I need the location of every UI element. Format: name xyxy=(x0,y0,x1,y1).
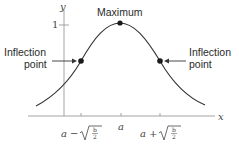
x-axis-label: x xyxy=(218,111,224,122)
sqrt-icon xyxy=(159,126,181,140)
left-inflection-point xyxy=(78,58,84,64)
gaussian-curve xyxy=(36,23,205,106)
x-tick-label-right: a + b 2 xyxy=(140,126,181,140)
svg-text:b: b xyxy=(93,126,97,133)
left-inflection-label-line1: Inflection xyxy=(4,46,46,58)
right-inflection-point xyxy=(157,58,163,64)
right-inflection-label-line2: point xyxy=(189,58,212,70)
left-arrow-head-icon xyxy=(72,59,77,64)
right-arrow-head-icon xyxy=(164,59,169,64)
svg-text:2: 2 xyxy=(172,133,176,140)
maximum-label: Maximum xyxy=(97,6,143,18)
right-inflection-label-line1: Inflection xyxy=(189,46,231,58)
gaussian-diagram: 1 y x Maximum Inflection point Inflectio… xyxy=(0,0,239,150)
x-tick-label-center: a xyxy=(118,121,124,132)
left-inflection-label-line2: point xyxy=(24,58,47,70)
x-tick-label-left: a − b 2 xyxy=(61,126,102,140)
svg-text:a: a xyxy=(61,128,67,139)
y-axis-label: y xyxy=(59,1,66,12)
svg-text:b: b xyxy=(172,126,176,133)
svg-text:2: 2 xyxy=(93,133,97,140)
maximum-point xyxy=(117,20,122,25)
svg-text:−: − xyxy=(70,128,78,139)
svg-text:+: + xyxy=(149,128,157,139)
sqrt-icon xyxy=(80,126,102,140)
y-tick-label: 1 xyxy=(52,19,58,30)
svg-text:a: a xyxy=(140,128,146,139)
